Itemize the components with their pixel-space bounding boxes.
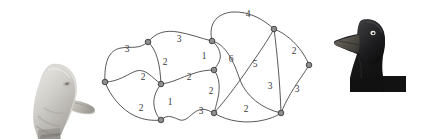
correspondence-graph: 32223123146252323 [0,0,423,139]
figure-root: 32223123146252323 [0,0,423,139]
edge-weight-label: 6 [229,54,234,64]
edge-n4-n8 [212,41,281,113]
edge-weight-label: 3 [177,34,182,44]
edge-weight-label: 3 [125,44,130,54]
edge-n3-n6 [161,109,214,120]
edge-n7-n8 [274,29,281,113]
edge-weight-label: 3 [268,81,273,91]
edge-n5-n6 [214,70,219,113]
graph-nodes [102,26,312,123]
graph-node[interactable] [306,62,312,68]
edge-weight-label: 5 [253,59,258,69]
graph-svg: 32223123146252323 [0,0,423,139]
edge-weight-label: 2 [244,104,249,114]
edge-n2-n3 [154,84,161,120]
edge-weight-label: 1 [168,97,173,107]
edge-weight-label: 2 [292,46,297,56]
edge-weight-label: 3 [295,84,300,94]
edge-weight-label: 1 [202,51,207,61]
graph-node[interactable] [271,26,277,32]
graph-edges [105,12,309,122]
edge-n0-n2 [105,70,161,84]
graph-node[interactable] [158,81,164,87]
graph-node[interactable] [102,79,108,85]
graph-node[interactable] [278,110,284,116]
edge-weight-label: 3 [199,106,204,116]
edge-weight-label: 2 [163,57,168,67]
graph-node[interactable] [211,67,217,73]
graph-node[interactable] [145,39,151,45]
edge-weight-label: 4 [246,9,251,19]
edge-weight-label: 2 [141,72,146,82]
edge-weight-label: 2 [209,86,214,96]
edge-weight-label: 2 [187,72,192,82]
edge-n6-n8 [214,113,281,122]
graph-node[interactable] [209,38,215,44]
graph-node[interactable] [158,117,164,123]
graph-node[interactable] [211,110,217,116]
edge-n0-n3 [105,82,161,120]
edge-n6-n7 [214,29,274,113]
edge-weight-label: 2 [139,103,144,113]
edge-n1-n2 [148,42,161,84]
edge-n4-n5 [212,41,220,70]
edge-n4-n7 [211,12,274,41]
